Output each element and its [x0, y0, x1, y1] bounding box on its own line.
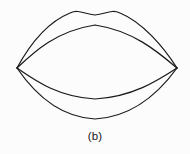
upper-lip-inner-curve	[17, 25, 177, 68]
figure-caption-label: (b)	[0, 128, 190, 144]
figure-container: Outline line drawing of a pair of lips (…	[0, 0, 190, 154]
upper-lip-outer-curve	[17, 11, 177, 68]
lips-line-drawing: Outline line drawing of a pair of lips	[0, 0, 190, 128]
lower-lip-outer-curve	[17, 68, 177, 119]
